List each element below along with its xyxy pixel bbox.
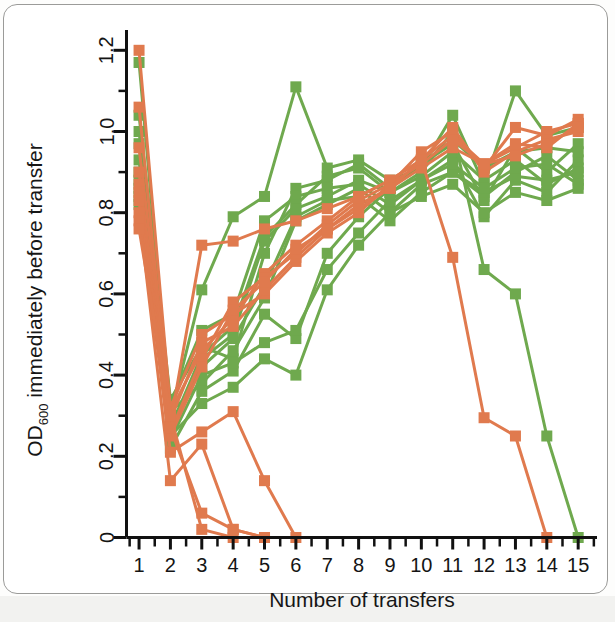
series-marker xyxy=(447,110,458,121)
series-marker xyxy=(510,288,521,299)
figure-root: 00.20.40.60.81.01.2 12345678910111213141… xyxy=(0,0,615,622)
series-marker xyxy=(259,223,270,234)
series-marker xyxy=(196,284,207,295)
x-axis-tick-label: 5 xyxy=(259,554,270,576)
series-marker xyxy=(290,203,301,214)
series-marker xyxy=(322,171,333,182)
series-marker xyxy=(228,305,239,316)
x-axis-tick-labels: 123456789101112131415 xyxy=(133,554,589,576)
series-marker xyxy=(228,345,239,356)
x-axis-tick-label: 13 xyxy=(504,554,526,576)
y-axis-tick-label: 1.2 xyxy=(96,36,118,64)
series-marker xyxy=(196,524,207,535)
svg-text:OD600 immediately before trans: OD600 immediately before transfer xyxy=(23,143,51,456)
series-marker xyxy=(322,284,333,295)
series-marker xyxy=(134,102,145,113)
series-marker xyxy=(416,191,427,202)
series-marker xyxy=(259,191,270,202)
y-axis-title-rest: immediately before transfer xyxy=(23,143,46,403)
series-marker xyxy=(510,163,521,174)
x-axis-tick-label: 15 xyxy=(567,554,589,576)
series-marker xyxy=(290,325,301,336)
series-marker xyxy=(384,183,395,194)
series-marker xyxy=(479,158,490,169)
series-marker xyxy=(541,195,552,206)
series-marker xyxy=(479,412,490,423)
series-marker xyxy=(228,211,239,222)
series-marker xyxy=(228,382,239,393)
series-marker xyxy=(541,431,552,442)
series-marker xyxy=(322,264,333,275)
x-axis-tick-label: 11 xyxy=(442,554,463,576)
series-marker xyxy=(134,142,145,153)
series-marker xyxy=(353,163,364,174)
series-marker xyxy=(259,276,270,287)
x-axis-tick-label: 3 xyxy=(196,554,207,576)
series-marker xyxy=(447,134,458,145)
x-axis-tick-label: 6 xyxy=(290,554,301,576)
data-series-layer xyxy=(134,45,584,543)
series-marker xyxy=(134,195,145,206)
x-axis-tick-label: 2 xyxy=(165,554,176,576)
x-axis-tick-label: 12 xyxy=(473,554,495,576)
series-marker xyxy=(196,398,207,409)
series-marker xyxy=(447,179,458,190)
x-axis-title: Number of transfers xyxy=(269,588,455,611)
series-marker xyxy=(165,410,176,421)
series-marker xyxy=(322,248,333,259)
series-marker xyxy=(290,81,301,92)
series-marker xyxy=(510,431,521,442)
series-marker xyxy=(322,223,333,234)
series-marker xyxy=(322,203,333,214)
series-marker xyxy=(134,45,145,56)
x-axis-tick-label: 14 xyxy=(536,554,558,576)
series-marker xyxy=(228,236,239,247)
series-marker xyxy=(259,236,270,247)
series-marker xyxy=(290,215,301,226)
series-marker xyxy=(196,426,207,437)
series-marker xyxy=(541,175,552,186)
y-axis-title-main: OD xyxy=(23,425,46,457)
x-axis-tick-label: 10 xyxy=(410,554,432,576)
series-marker xyxy=(196,439,207,450)
series-marker xyxy=(479,264,490,275)
x-axis-tick-label: 9 xyxy=(384,554,395,576)
y-axis-tick-labels: 00.20.40.60.81.01.2 xyxy=(96,36,118,543)
y-axis-tick-label: 1.0 xyxy=(96,118,118,146)
series-marker xyxy=(353,175,364,186)
series-marker xyxy=(510,150,521,161)
series-marker xyxy=(259,475,270,486)
series-marker xyxy=(510,122,521,133)
series-marker xyxy=(384,207,395,218)
y-axis-tick-label: 0.6 xyxy=(96,280,118,308)
series-marker xyxy=(228,357,239,368)
series-marker xyxy=(196,240,207,251)
series-marker xyxy=(259,337,270,348)
series-marker xyxy=(228,406,239,417)
series-marker xyxy=(510,85,521,96)
series-marker xyxy=(510,187,521,198)
x-axis-tick-label: 1 xyxy=(133,554,144,576)
series-marker xyxy=(541,138,552,149)
series-marker xyxy=(479,183,490,194)
x-axis-tick-label: 4 xyxy=(228,554,239,576)
series-marker xyxy=(416,154,427,165)
series-marker xyxy=(447,252,458,263)
series-marker xyxy=(510,138,521,149)
y-axis-title: OD600 immediately before transfer xyxy=(23,143,51,456)
x-axis-tick-label: 7 xyxy=(322,554,333,576)
series-marker xyxy=(573,179,584,190)
series-marker xyxy=(573,122,584,133)
series-marker xyxy=(290,244,301,255)
y-axis-tick-label: 0.4 xyxy=(96,361,118,389)
series-marker xyxy=(447,158,458,169)
series-marker xyxy=(353,228,364,239)
y-axis-tick-label: 0 xyxy=(96,532,118,543)
series-marker xyxy=(573,167,584,178)
series-marker xyxy=(196,386,207,397)
series-marker xyxy=(322,191,333,202)
series-marker xyxy=(541,158,552,169)
series-marker xyxy=(353,203,364,214)
series-marker xyxy=(479,207,490,218)
y-axis-tick-label: 0.2 xyxy=(96,442,118,470)
